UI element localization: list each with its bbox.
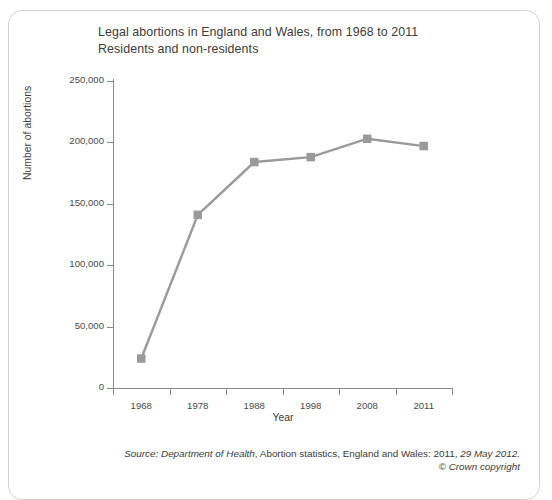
y-tick-label: 200,000 [69,135,104,146]
x-tick-mark [339,389,340,395]
x-tick-mark [170,389,171,395]
source-publisher: Source: Department of Health [124,448,255,459]
x-tick-label: 1978 [168,400,228,411]
y-tick-mark [107,81,113,82]
x-tick-label: 1998 [281,400,341,411]
y-tick-label: 100,000 [69,258,104,269]
y-tick-label: 0 [99,381,104,392]
plot-area: 050,000100,000150,000200,000250,000 [113,81,452,388]
x-tick-label: 2008 [337,400,397,411]
x-tick-mark [452,389,453,395]
x-tick-mark [226,389,227,395]
x-tick-label: 1988 [224,400,284,411]
y-axis-title: Number of abortions [22,40,33,180]
y-tick-mark [107,142,113,143]
x-tick-label: 2011 [394,400,454,411]
source-note: Source: Department of Health, Abortion s… [0,448,520,459]
copyright-note: © Crown copyright [0,461,520,472]
chart-title-line-2: Residents and non-residents [98,41,498,58]
x-tick-mark [283,389,284,395]
y-tick-label: 250,000 [69,74,104,85]
x-axis-title: Year [113,412,453,423]
x-tick-mark [113,389,114,395]
chart-title-line-1: Legal abortions in England and Wales, fr… [98,24,498,41]
y-tick-mark [107,204,113,205]
x-tick-label: 1968 [111,400,171,411]
y-tick-mark [107,265,113,266]
source-date: 29 May 2012. [460,448,520,459]
chart-title: Legal abortions in England and Wales, fr… [98,24,498,58]
y-tick-mark [107,327,113,328]
y-tick-label: 50,000 [75,320,104,331]
y-tick-label: 150,000 [69,197,104,208]
x-tick-mark [396,389,397,395]
source-title: , Abortion statistics, England and Wales… [255,448,460,459]
